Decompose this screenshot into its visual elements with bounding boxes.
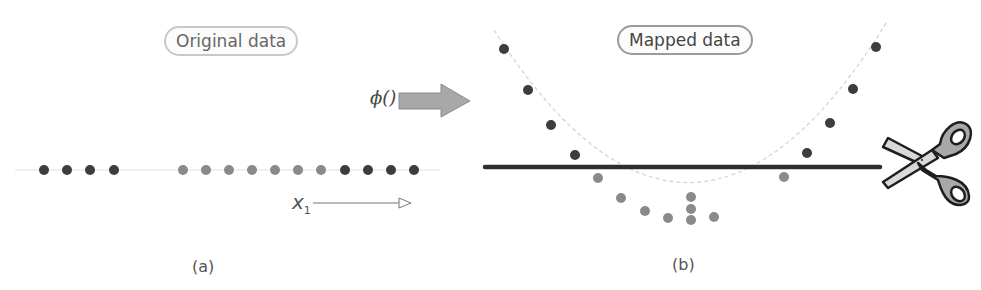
data-point-light (178, 165, 188, 175)
data-point-dark (570, 150, 580, 160)
data-point-dark (523, 85, 533, 95)
data-point-dark (62, 165, 72, 175)
transform-arrow-icon (399, 84, 470, 117)
data-point-light (270, 165, 280, 175)
data-point-light (224, 165, 234, 175)
scissors-icon (883, 122, 971, 205)
data-point-dark (340, 165, 350, 175)
data-point-dark (871, 42, 881, 52)
data-point-light (686, 192, 696, 202)
data-point-light (293, 165, 303, 175)
data-point-light (316, 165, 326, 175)
original-data-label: Original data (164, 26, 298, 56)
data-point-dark (802, 148, 812, 158)
mapped-data-label: Mapped data (617, 25, 753, 55)
data-point-dark (39, 165, 49, 175)
x1-axis-arrow (313, 198, 411, 208)
data-point-dark (825, 118, 835, 128)
data-point-light (640, 206, 650, 216)
diagram-canvas (0, 0, 981, 290)
data-point-light (686, 215, 696, 225)
data-point-light (779, 172, 789, 182)
data-point-dark (499, 44, 509, 54)
x1-axis-name: x (292, 190, 304, 214)
mapped-points (499, 42, 881, 225)
data-point-dark (409, 165, 419, 175)
data-point-dark (109, 165, 119, 175)
data-point-light (616, 193, 626, 203)
x1-axis-subscript: 1 (304, 204, 311, 217)
caption-b: (b) (672, 255, 695, 274)
data-point-dark (85, 165, 95, 175)
data-point-light (686, 204, 696, 214)
data-point-dark (546, 120, 556, 130)
data-point-light (247, 165, 257, 175)
x1-axis-label: x1 (292, 190, 311, 217)
data-point-light (201, 165, 211, 175)
data-point-dark (848, 84, 858, 94)
data-point-light (593, 173, 603, 183)
caption-a: (a) (192, 257, 214, 276)
transform-label: ϕ() (370, 87, 396, 108)
data-point-dark (363, 165, 373, 175)
data-point-light (663, 213, 673, 223)
data-point-light (709, 212, 719, 222)
data-point-dark (386, 165, 396, 175)
